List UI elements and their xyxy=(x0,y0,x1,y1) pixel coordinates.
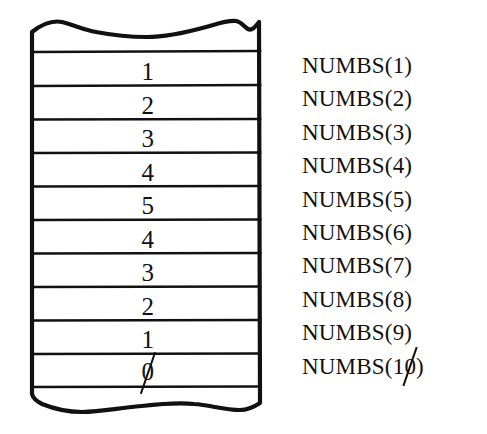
array-label-10: NUMBS(10) xyxy=(302,350,487,383)
cell-divider-9 xyxy=(32,354,260,355)
array-label-column: NUMBS(1) NUMBS(2) NUMBS(3) NUMBS(4) NUMB… xyxy=(302,49,487,383)
array-strip xyxy=(28,18,268,420)
array-label-4: NUMBS(4) xyxy=(302,149,487,182)
cell-divider-8 xyxy=(32,320,260,321)
cell-divider-bottom xyxy=(32,387,260,388)
array-label-1: NUMBS(1) xyxy=(302,49,487,82)
array-label-10-text: NUMBS(10) xyxy=(302,354,424,379)
array-strip-outline xyxy=(28,18,268,420)
cell-divider-1 xyxy=(32,85,260,86)
array-label-7: NUMBS(7) xyxy=(302,249,487,282)
array-diagram-figure: 1 2 3 4 5 4 3 2 1 0 NUMBS(1) NUMBS(2) NU… xyxy=(0,0,487,434)
cell-divider-7 xyxy=(32,287,260,288)
array-label-6: NUMBS(6) xyxy=(302,216,487,249)
cell-divider-2 xyxy=(32,119,260,120)
array-label-5: NUMBS(5) xyxy=(302,183,487,216)
array-label-3: NUMBS(3) xyxy=(302,116,487,149)
cell-divider-6 xyxy=(32,253,260,254)
cell-divider-5 xyxy=(32,220,260,221)
cell-divider-3 xyxy=(32,153,260,154)
array-label-8: NUMBS(8) xyxy=(302,283,487,316)
array-label-9: NUMBS(9) xyxy=(302,316,487,349)
array-label-2: NUMBS(2) xyxy=(302,82,487,115)
cell-divider-top xyxy=(32,51,260,52)
cell-divider-4 xyxy=(32,186,260,187)
